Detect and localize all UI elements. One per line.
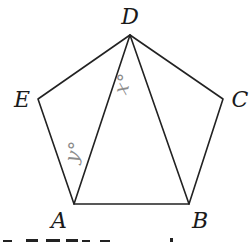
vertex-label-d: D (120, 4, 139, 29)
angle-label-x: x° (109, 71, 136, 97)
vertex-label-e: E (13, 87, 30, 112)
vertex-label-a: A (49, 208, 67, 233)
vertex-label-b: B (191, 208, 208, 233)
pentagon-outline (38, 35, 223, 204)
pentagon-diagram: D E C A B x° y° (0, 0, 252, 242)
cropped-caption-fragment (3, 238, 173, 242)
vertex-label-c: C (232, 87, 249, 112)
diagonal-AD (74, 35, 130, 204)
angle-label-y: y° (59, 139, 86, 166)
diagonal-BD (130, 35, 189, 204)
